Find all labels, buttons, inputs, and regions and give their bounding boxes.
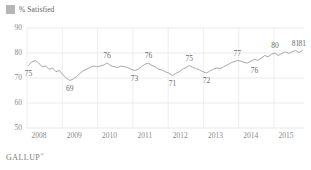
point-label-76: 76 bbox=[145, 52, 153, 60]
x-tick-label-2015: 2015 bbox=[279, 131, 294, 140]
point-label-72: 72 bbox=[203, 77, 211, 85]
point-label-71: 71 bbox=[169, 80, 177, 88]
x-tick-label-2010: 2010 bbox=[102, 131, 117, 140]
y-tick-label-60: 60 bbox=[15, 99, 23, 107]
point-label-75: 75 bbox=[25, 70, 33, 78]
legend-swatch-satisfied bbox=[6, 5, 15, 14]
y-tick-label-90: 90 bbox=[15, 24, 23, 32]
point-label-69: 69 bbox=[66, 85, 74, 93]
chart-legend: % Satisfied bbox=[6, 3, 54, 15]
x-tick-label-2012: 2012 bbox=[173, 131, 188, 140]
point-label-75: 75 bbox=[186, 55, 194, 63]
x-tick-label-2009: 2009 bbox=[67, 131, 82, 140]
legend-label-satisfied: % Satisfied bbox=[19, 5, 54, 14]
x-axis: 20082009201020112012201320142015 bbox=[27, 131, 304, 143]
registered-mark: ® bbox=[40, 152, 44, 157]
point-label-77: 77 bbox=[234, 50, 242, 58]
plot-area bbox=[27, 28, 304, 128]
plot-svg bbox=[27, 28, 304, 128]
y-axis: 9080706050 bbox=[0, 28, 25, 128]
point-label-80: 80 bbox=[271, 42, 279, 50]
gallup-satisfaction-chart: % Satisfied 9080706050 75697673767175727… bbox=[0, 0, 311, 170]
y-tick-label-80: 80 bbox=[15, 49, 23, 57]
point-label-81: 81 bbox=[298, 40, 306, 48]
x-tick-label-2013: 2013 bbox=[208, 131, 223, 140]
gridlines-horizontal bbox=[27, 28, 304, 128]
point-label-76: 76 bbox=[251, 67, 259, 75]
point-label-73: 73 bbox=[131, 75, 139, 83]
series-line-satisfied bbox=[28, 51, 302, 81]
point-label-76: 76 bbox=[103, 52, 111, 60]
gallup-wordmark: GALLUP bbox=[6, 153, 40, 162]
x-tick-label-2011: 2011 bbox=[137, 131, 152, 140]
y-tick-label-50: 50 bbox=[15, 124, 23, 132]
x-tick-label-2014: 2014 bbox=[243, 131, 258, 140]
y-tick-label-70: 70 bbox=[15, 74, 23, 82]
x-tick-label-2008: 2008 bbox=[32, 131, 47, 140]
gallup-logo: GALLUP® bbox=[6, 152, 45, 162]
